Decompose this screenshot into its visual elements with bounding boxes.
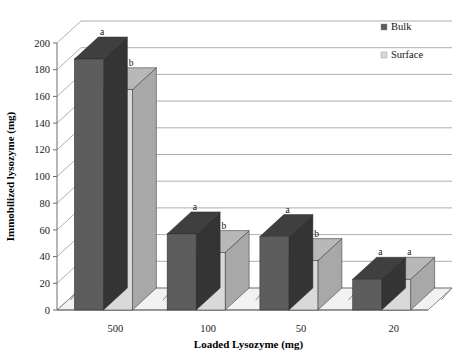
y-tick-label: 100 [34, 171, 50, 182]
x-tick-label: 50 [296, 323, 307, 334]
bar-chart: 0204060801001201401601802005001005020aab… [0, 0, 454, 353]
y-tick-label: 140 [34, 118, 50, 129]
bars-group [74, 37, 434, 310]
bar-significance-label: a [378, 247, 383, 257]
y-tick-label: 160 [34, 91, 50, 102]
legend-item-surface: Surface [381, 49, 423, 60]
bar-front-face [353, 279, 382, 310]
bar-front-face [74, 59, 103, 310]
legend-label: Surface [391, 49, 423, 60]
legend-item-bulk: Bulk [381, 21, 412, 32]
x-tick-label: 100 [200, 323, 216, 334]
plot-area: 0204060801001201401601802005001005020aab… [34, 21, 452, 334]
y-axis: 020406080100120140160180200 [34, 38, 57, 316]
bar-significance-label: a [407, 247, 412, 257]
bar-bulk-100 [167, 212, 220, 310]
y-tick-label: 40 [40, 251, 51, 262]
bar-significance-label: a [193, 202, 198, 212]
bar-significance-label: b [129, 58, 134, 68]
x-tick-label: 20 [388, 323, 399, 334]
y-tick-label: 20 [40, 278, 51, 289]
y-tick-label: 180 [34, 64, 50, 75]
legend-swatch [381, 24, 387, 30]
legend: BulkSurface [381, 21, 423, 60]
bar-side-face [132, 68, 156, 310]
bar-front-face [167, 234, 196, 310]
bar-significance-label: a [100, 27, 105, 37]
y-tick-label: 60 [40, 225, 51, 236]
bar-side-face [103, 37, 127, 310]
y-tick-label: 200 [34, 38, 50, 49]
bar-significance-label: b [314, 229, 319, 239]
gridline-connector [57, 21, 81, 43]
x-tick-label: 500 [108, 323, 124, 334]
bar-front-face [260, 237, 289, 310]
chart-canvas: 0204060801001201401601802005001005020aab… [0, 0, 454, 353]
y-tick-label: 80 [40, 198, 51, 209]
bar-significance-label: a [285, 205, 290, 215]
bar-bulk-500 [74, 37, 127, 310]
y-tick-label: 0 [45, 305, 50, 316]
x-axis-title: Loaded Lysozyme (mg) [194, 338, 304, 351]
bar-significance-label: b [221, 221, 226, 231]
legend-swatch [381, 52, 387, 58]
legend-label: Bulk [391, 21, 412, 32]
y-tick-label: 120 [34, 144, 50, 155]
y-axis-title: Immobilized lysozyme (mg) [4, 111, 17, 241]
